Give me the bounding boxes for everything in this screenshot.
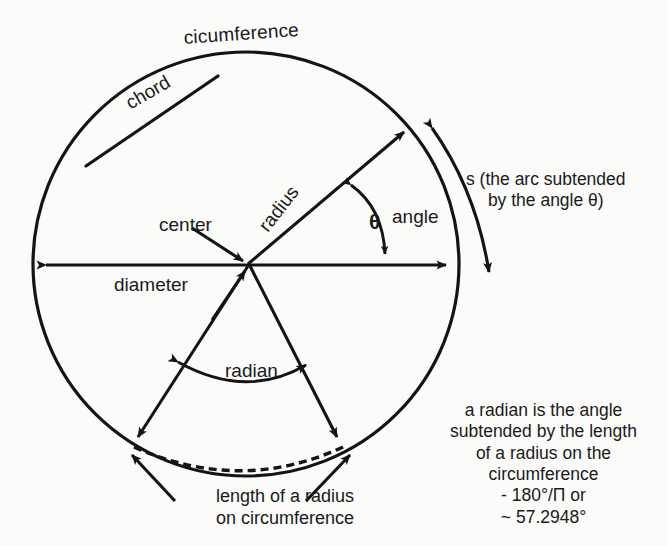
dashed-arc-radius-length [134,446,345,471]
label-center: center [159,214,212,236]
label-radian: radian [225,360,278,382]
center-pointer-arrow-lower [212,271,245,320]
radian-right-radius [250,266,337,437]
circle-diagram: cicumference chord radius center diamete… [0,0,667,546]
label-angle: angle [392,206,439,228]
label-radian-definition: a radian is the angle subtended by the l… [420,400,667,528]
label-theta-symbol: θ [369,210,380,235]
label-arc-s-description: s (the arc subtended by the angle θ) [466,169,626,212]
radius-line [248,132,404,264]
label-length-of-radius-on-circumference: length of a radius on circumference [160,486,410,530]
label-diameter: diameter [114,274,188,296]
